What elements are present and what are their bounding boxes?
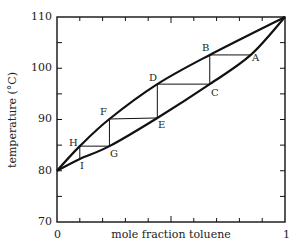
axis-ticks bbox=[57, 17, 285, 222]
phase-diagram-chart: 110 100 90 80 70 0 1 mole fraction tolue… bbox=[0, 0, 302, 251]
x-axis-label: mole fraction toluene bbox=[0, 228, 302, 241]
point-label-f: F bbox=[100, 106, 107, 117]
plot-area bbox=[0, 0, 302, 251]
point-label-g: G bbox=[110, 148, 118, 159]
y-axis-label: temperature (°C) bbox=[6, 72, 19, 168]
point-label-c: C bbox=[211, 87, 219, 98]
plot-frame bbox=[57, 17, 285, 222]
y-tick-70: 70 bbox=[26, 215, 52, 228]
y-tick-90: 90 bbox=[26, 112, 52, 125]
point-label-e: E bbox=[158, 119, 165, 130]
point-label-a: A bbox=[252, 52, 259, 63]
y-tick-100: 100 bbox=[26, 61, 52, 74]
y-tick-80: 80 bbox=[26, 164, 52, 177]
point-label-h: H bbox=[69, 137, 78, 148]
point-label-b: B bbox=[202, 42, 209, 53]
point-label-d: D bbox=[149, 72, 157, 83]
liquid-curve bbox=[57, 17, 285, 171]
y-tick-110: 110 bbox=[26, 10, 52, 23]
point-label-i: I bbox=[80, 160, 84, 171]
vapor-curve bbox=[57, 17, 285, 171]
